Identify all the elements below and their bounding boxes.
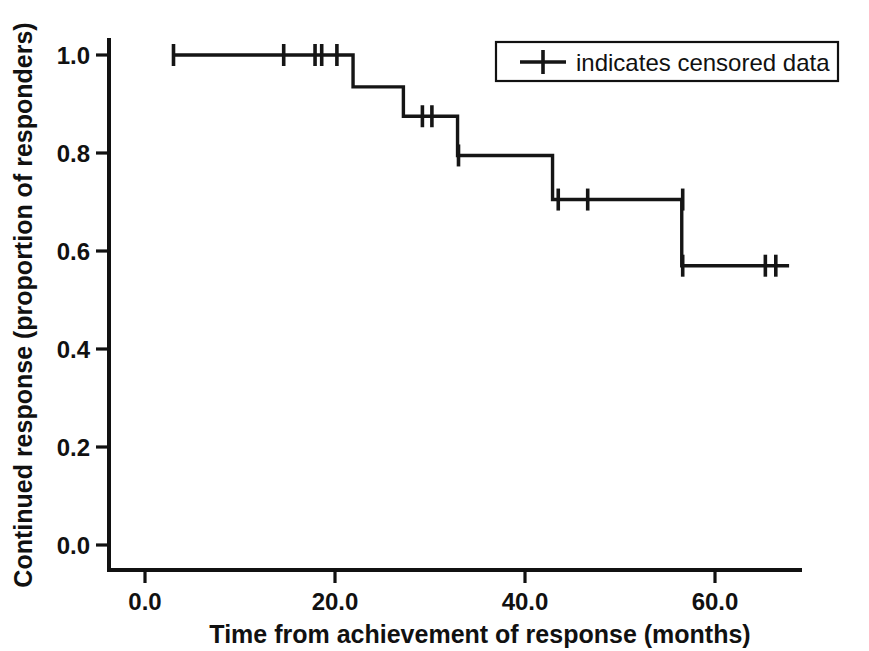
y-tick-label-0.4: 0.4 [57,336,91,363]
survival-step-curve [174,55,790,266]
legend: indicates censored data [496,42,838,81]
x-tick-label-20: 20.0 [312,588,359,615]
y-tick-label-0.0: 0.0 [57,532,90,559]
x-axis-title: Time from achievement of response (month… [209,620,750,648]
y-axis-tick-labels: 1.0 0.8 0.6 0.4 0.2 0.0 [57,42,91,559]
x-tick-label-60: 60.0 [692,588,739,615]
y-axis-title: Continued response (proportion of respon… [9,22,37,587]
y-tick-label-0.8: 0.8 [57,140,90,167]
chart-canvas: 1.0 0.8 0.6 0.4 0.2 0.0 0.0 20.0 40.0 60… [0,0,869,651]
kaplan-meier-figure: 1.0 0.8 0.6 0.4 0.2 0.0 0.0 20.0 40.0 60… [0,0,869,651]
x-tick-label-40: 40.0 [502,588,549,615]
x-tick-label-0: 0.0 [128,588,161,615]
y-tick-label-1.0: 1.0 [57,42,90,69]
legend-label-censored: indicates censored data [576,49,830,76]
y-tick-label-0.2: 0.2 [57,434,90,461]
y-tick-label-0.6: 0.6 [57,238,90,265]
x-axis-tick-labels: 0.0 20.0 40.0 60.0 [128,588,738,615]
